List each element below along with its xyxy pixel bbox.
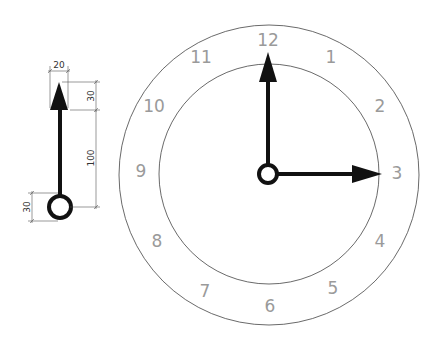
numeral-6: 6 bbox=[265, 296, 276, 316]
dim-arrow-width: 20 bbox=[53, 60, 65, 70]
numeral-9: 9 bbox=[136, 161, 147, 181]
minute-hand bbox=[259, 52, 277, 165]
numeral-12: 12 bbox=[257, 30, 279, 50]
numeral-1: 1 bbox=[326, 47, 337, 67]
numeral-3: 3 bbox=[392, 163, 403, 183]
numeral-7: 7 bbox=[200, 281, 211, 301]
numeral-11: 11 bbox=[190, 47, 212, 67]
dim-arrow-length: 30 bbox=[86, 90, 96, 102]
numeral-10: 10 bbox=[143, 96, 165, 116]
hour-hand bbox=[277, 165, 382, 183]
clock-face: 12 1 2 3 4 5 6 7 8 9 10 11 bbox=[119, 25, 419, 325]
numeral-2: 2 bbox=[375, 96, 386, 116]
arrowhead bbox=[50, 82, 68, 110]
hand-dimension-drawing: 20 30 100 30 bbox=[22, 60, 100, 223]
clock-design-drawing: 12 1 2 3 4 5 6 7 8 9 10 11 bbox=[0, 0, 436, 343]
dim-hub-diameter: 30 bbox=[22, 201, 32, 213]
hand-hub bbox=[259, 165, 277, 183]
numeral-8: 8 bbox=[152, 231, 163, 251]
dim-shaft-length: 100 bbox=[86, 149, 96, 166]
hub-circle bbox=[49, 196, 71, 218]
numeral-5: 5 bbox=[328, 278, 339, 298]
numeral-4: 4 bbox=[375, 231, 386, 251]
